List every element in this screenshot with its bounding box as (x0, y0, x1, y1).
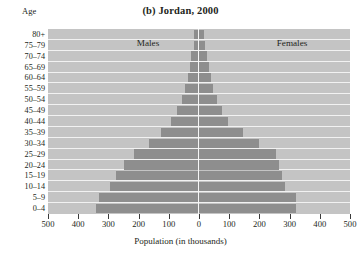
bar-female (199, 139, 259, 148)
age-group-label: 25–29 (1, 150, 45, 159)
pyramid-row (48, 181, 350, 192)
bar-male (171, 117, 199, 126)
bar-male (182, 95, 199, 104)
pyramid-row (48, 203, 350, 214)
pyramid-row (48, 160, 350, 171)
bar-male (134, 149, 199, 158)
pyramid-row (48, 116, 350, 127)
age-group-label: 60–64 (1, 73, 45, 82)
bar-male (185, 84, 199, 93)
series-label-females: Females (240, 38, 344, 48)
bar-female (199, 171, 282, 180)
bar-female (199, 95, 217, 104)
bar-female (199, 73, 211, 82)
age-group-label: 50–54 (1, 95, 45, 104)
pyramid-row (48, 94, 350, 105)
bar-male (161, 128, 199, 137)
bar-female (199, 117, 228, 126)
age-axis-labels: 80+75–7970–7465–6960–6455–5950–5445–4940… (0, 29, 45, 214)
population-pyramid-chart: Age (b) Jordan, 2000 80+75–7970–7465–696… (0, 0, 361, 270)
chart-title: (b) Jordan, 2000 (0, 5, 361, 16)
bar-female (199, 193, 296, 202)
age-group-label: 45–49 (1, 106, 45, 115)
bar-male (99, 193, 199, 202)
age-group-label: 15–19 (1, 171, 45, 180)
age-group-label: 5–9 (1, 193, 45, 202)
plot-area: Males Females (48, 29, 350, 214)
bar-female (199, 204, 296, 213)
age-group-label: 80+ (1, 30, 45, 39)
age-group-label: 55–59 (1, 84, 45, 93)
age-group-label: 70–74 (1, 52, 45, 61)
age-group-label: 10–14 (1, 182, 45, 191)
age-group-label: 30–34 (1, 139, 45, 148)
zero-axis-line (198, 29, 199, 214)
x-axis-tick-labels: 5004003002001000100200300400500 (0, 219, 361, 231)
pyramid-row (48, 51, 350, 62)
bar-female (199, 84, 213, 93)
age-group-label: 0–4 (1, 204, 45, 213)
pyramid-row (48, 170, 350, 181)
age-group-label: 40–44 (1, 117, 45, 126)
age-group-label: 35–39 (1, 128, 45, 137)
pyramid-row (48, 149, 350, 160)
pyramid-row (48, 138, 350, 149)
pyramid-row (48, 192, 350, 203)
bar-male (96, 204, 199, 213)
age-group-label: 75–79 (1, 41, 45, 50)
pyramid-row (48, 73, 350, 84)
age-group-label: 65–69 (1, 63, 45, 72)
bar-female (199, 106, 222, 115)
bar-male (116, 171, 199, 180)
bar-female (199, 128, 243, 137)
pyramid-row (48, 62, 350, 73)
bar-female (199, 51, 207, 60)
pyramid-row (48, 105, 350, 116)
bar-male (110, 182, 199, 191)
bar-female (199, 182, 285, 191)
bar-female (199, 149, 276, 158)
age-group-label: 20–24 (1, 161, 45, 170)
x-axis-tick-label: 500 (330, 219, 361, 229)
x-axis-title: Population (in thousands) (0, 236, 361, 246)
series-label-males: Males (96, 38, 200, 48)
bar-female (199, 160, 279, 169)
pyramid-row (48, 83, 350, 94)
pyramid-row (48, 127, 350, 138)
bar-female (199, 62, 209, 71)
bar-male (177, 106, 199, 115)
bar-male (149, 139, 199, 148)
bar-male (124, 160, 200, 169)
